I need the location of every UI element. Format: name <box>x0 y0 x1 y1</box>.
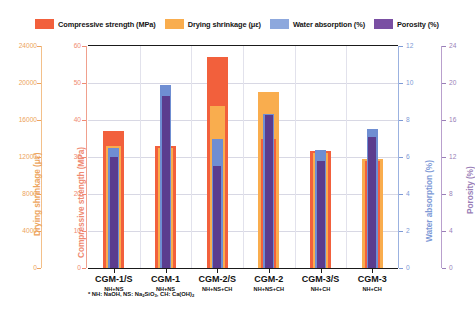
y-tick-compressive-strength <box>82 231 86 232</box>
axis-title-water-absorption: Water absorption (%) <box>424 160 434 242</box>
y-tick-porosity <box>442 194 446 195</box>
legend-swatch-compressive-strength <box>35 19 54 29</box>
y-tick-porosity <box>442 46 446 47</box>
y-tick-drying-shrinkage <box>37 231 41 232</box>
bar-porosity <box>110 157 118 268</box>
legend-label-porosity: Porosity (%) <box>397 20 439 29</box>
gridline-vertical <box>295 46 296 268</box>
y-tick-water-absorption <box>399 157 403 158</box>
y-tick-label-water-absorption: 2 <box>406 228 420 235</box>
x-axis-tick <box>166 269 167 273</box>
y-tick-label-drying-shrinkage: 24000 <box>7 43 37 50</box>
axis-title-compressive-strength: Compressive strength (MPa) <box>76 147 86 258</box>
legend-swatch-water-absorption <box>270 19 289 29</box>
y-tick-label-porosity: 24 <box>449 43 463 50</box>
y-tick-drying-shrinkage <box>37 83 41 84</box>
y-tick-porosity <box>442 268 446 269</box>
legend-swatch-drying-shrinkage <box>165 19 184 29</box>
y-tick-label-compressive-strength: 20 <box>65 191 81 198</box>
y-tick-drying-shrinkage <box>37 46 41 47</box>
y-tick-porosity <box>442 120 446 121</box>
y-tick-drying-shrinkage <box>37 120 41 121</box>
axis-title-porosity: Porosity (%) <box>465 166 475 214</box>
legend-label-water-absorption: Water absorption (%) <box>293 20 365 29</box>
y-tick-label-compressive-strength: 30 <box>65 154 81 161</box>
footnote-mid1: SiO <box>144 291 154 297</box>
y-tick-compressive-strength <box>82 120 86 121</box>
y-tick-label-water-absorption: 0 <box>406 265 420 272</box>
y-axis-compressive-strength: Compressive strength (MPa) <box>86 46 87 268</box>
y-tick-label-porosity: 20 <box>449 80 463 87</box>
legend-item-water-absorption: Water absorption (%) <box>270 19 365 29</box>
x-axis-tick <box>321 269 322 273</box>
y-tick-label-drying-shrinkage: 8000 <box>7 191 37 198</box>
y-tick-label-drying-shrinkage: 20000 <box>7 80 37 87</box>
gridline-vertical <box>346 46 347 268</box>
x-axis-tick <box>269 269 270 273</box>
footnote-mid2: , CH: Ca(OH) <box>157 291 192 297</box>
legend-item-drying-shrinkage: Drying shrinkage (με) <box>165 19 261 29</box>
y-tick-label-drying-shrinkage: 12000 <box>7 154 37 161</box>
plot-area <box>88 46 398 268</box>
y-tick-compressive-strength <box>82 268 86 269</box>
y-tick-porosity <box>442 157 446 158</box>
y-tick-compressive-strength <box>82 46 86 47</box>
footnote-prefix: * NH: NaOH, NS: Na <box>88 291 142 297</box>
legend-item-compressive-strength: Compressive strength (MPa) <box>35 19 156 29</box>
y-tick-porosity <box>442 231 446 232</box>
chart-footnote: * NH: NaOH, NS: Na2SiO3, CH: Ca(OH)2 <box>88 291 194 297</box>
bar-porosity <box>265 115 273 268</box>
bar-porosity <box>317 161 325 268</box>
gridline-vertical <box>140 46 141 268</box>
y-tick-label-porosity: 12 <box>449 154 463 161</box>
bar-porosity <box>213 166 221 268</box>
y-tick-label-compressive-strength: 0 <box>65 265 81 272</box>
y-tick-label-water-absorption: 10 <box>406 80 420 87</box>
y-tick-porosity <box>442 83 446 84</box>
x-axis-tick <box>217 269 218 273</box>
y-tick-label-water-absorption: 6 <box>406 154 420 161</box>
y-tick-water-absorption <box>399 194 403 195</box>
legend-label-drying-shrinkage: Drying shrinkage (με) <box>188 20 261 29</box>
footnote-sub3: 2 <box>192 293 194 298</box>
y-tick-water-absorption <box>399 231 403 232</box>
bar-porosity <box>368 137 376 268</box>
y-tick-label-drying-shrinkage: 0 <box>7 265 37 272</box>
y-tick-compressive-strength <box>82 83 86 84</box>
x-axis-tick <box>114 269 115 273</box>
y-tick-label-compressive-strength: 50 <box>65 80 81 87</box>
gridline-vertical <box>191 46 192 268</box>
y-tick-water-absorption <box>399 268 403 269</box>
y-axis-drying-shrinkage: Drying shrinkage (με) <box>41 46 42 268</box>
legend-swatch-porosity <box>374 19 393 29</box>
y-tick-label-drying-shrinkage: 4000 <box>7 228 37 235</box>
y-tick-label-compressive-strength: 40 <box>65 117 81 124</box>
y-tick-drying-shrinkage <box>37 157 41 158</box>
y-tick-drying-shrinkage <box>37 194 41 195</box>
x-axis-tick <box>372 269 373 273</box>
y-tick-label-water-absorption: 12 <box>406 43 420 50</box>
y-tick-label-compressive-strength: 10 <box>65 228 81 235</box>
y-tick-water-absorption <box>399 83 403 84</box>
y-tick-label-porosity: 8 <box>449 191 463 198</box>
y-tick-water-absorption <box>399 120 403 121</box>
x-axis-sublabel: NH+CH <box>332 286 412 292</box>
legend-item-porosity: Porosity (%) <box>374 19 439 29</box>
bar-porosity <box>162 96 170 268</box>
gridline-vertical <box>243 46 244 268</box>
y-tick-label-water-absorption: 4 <box>406 191 420 198</box>
y-tick-label-drying-shrinkage: 16000 <box>7 117 37 124</box>
y-tick-compressive-strength <box>82 157 86 158</box>
y-tick-water-absorption <box>399 46 403 47</box>
y-tick-label-porosity: 0 <box>449 265 463 272</box>
footnote-sub2: 3 <box>154 293 156 298</box>
x-axis-label-cgm-3: CGM-3 <box>332 274 412 284</box>
legend-label-compressive-strength: Compressive strength (MPa) <box>58 20 156 29</box>
chart-legend: Compressive strength (MPa) Drying shrink… <box>0 16 474 32</box>
y-tick-compressive-strength <box>82 194 86 195</box>
y-tick-label-porosity: 4 <box>449 228 463 235</box>
y-tick-label-water-absorption: 8 <box>406 117 420 124</box>
y-tick-label-porosity: 16 <box>449 117 463 124</box>
y-tick-label-compressive-strength: 60 <box>65 43 81 50</box>
